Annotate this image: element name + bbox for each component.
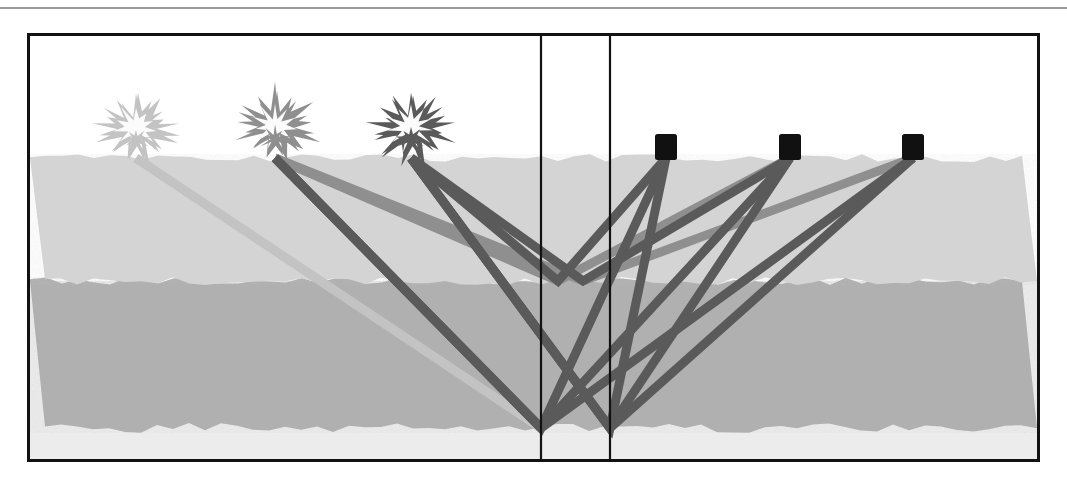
receiver-marker[interactable] <box>902 134 924 160</box>
page-top-rule <box>0 7 1067 9</box>
seismic-diagram <box>30 36 1037 459</box>
figure-frame <box>27 33 1040 462</box>
receiver-marker[interactable] <box>655 134 677 160</box>
seismic-ray-diagram <box>30 36 1037 459</box>
receiver-marker[interactable] <box>779 134 801 160</box>
figure-page <box>0 0 1067 489</box>
geophone-icon <box>655 134 677 160</box>
layer-middle <box>30 277 1037 433</box>
geophone-icon <box>779 134 801 160</box>
geophone-icon <box>902 134 924 160</box>
